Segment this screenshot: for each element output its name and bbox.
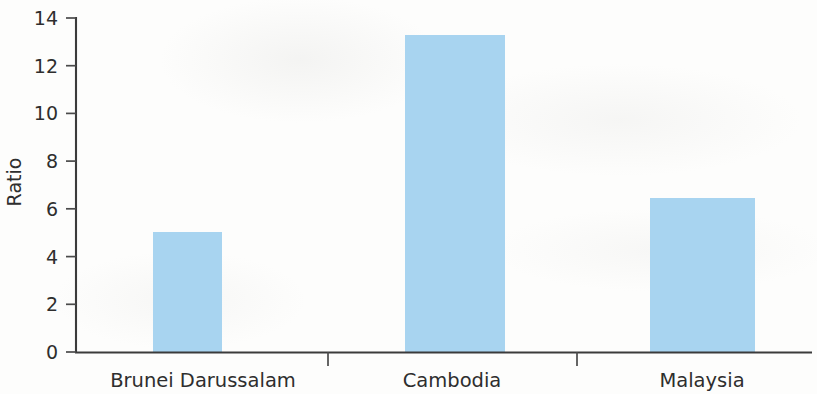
y-tick-label-4: 4 (46, 246, 58, 268)
bar-series (153, 35, 755, 352)
y-axis-title: Ratio (3, 158, 25, 207)
y-tick-label-14: 14 (34, 7, 58, 29)
bar-brunei-darussalam (153, 232, 222, 352)
y-tick-label-0: 0 (46, 341, 58, 363)
chart-plot-area: 14 12 10 8 6 4 2 0 Brunei Darussalam Cam… (0, 0, 817, 394)
y-tick-label-12: 12 (34, 55, 58, 77)
x-axis-ticks (328, 352, 577, 366)
x-axis-tick-labels: Brunei Darussalam Cambodia Malaysia (110, 369, 744, 392)
bar-chart-figure: 14 12 10 8 6 4 2 0 Brunei Darussalam Cam… (0, 0, 817, 394)
y-axis-tick-labels: 14 12 10 8 6 4 2 0 (34, 7, 58, 363)
bar-malaysia (650, 198, 755, 352)
y-tick-label-6: 6 (46, 198, 58, 220)
y-tick-label-10: 10 (34, 102, 58, 124)
x-tick-label-cambodia: Cambodia (403, 369, 502, 392)
y-tick-label-2: 2 (46, 293, 58, 315)
x-tick-label-malaysia: Malaysia (659, 369, 744, 392)
x-tick-label-brunei-darussalam: Brunei Darussalam (110, 369, 296, 392)
y-axis-ticks (66, 18, 76, 352)
y-tick-label-8: 8 (46, 150, 58, 172)
bar-cambodia (405, 35, 505, 352)
